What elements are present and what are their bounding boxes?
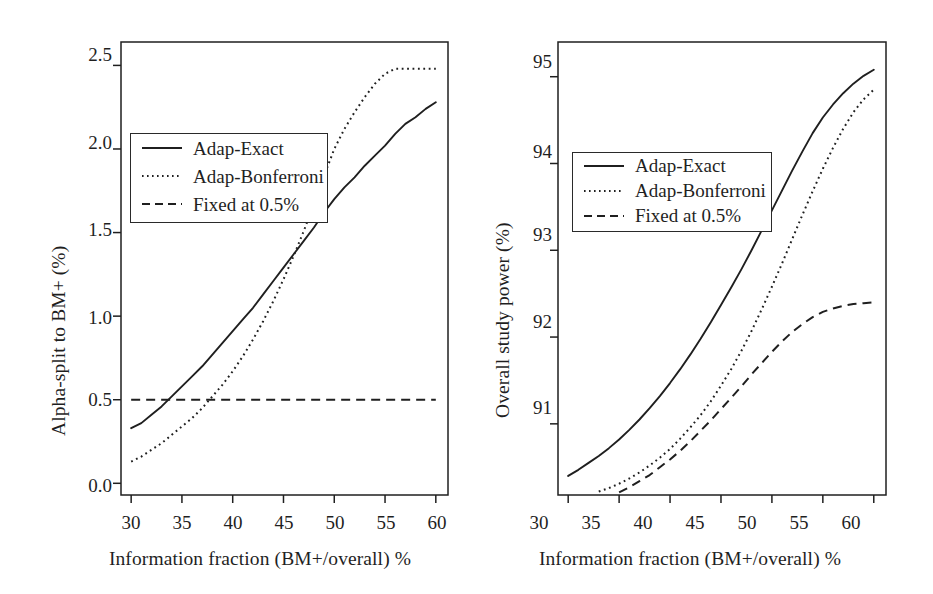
xtick-label: 30 bbox=[514, 512, 564, 534]
legend-key-solid-icon bbox=[582, 158, 626, 174]
legend-label: Adap-Bonferroni bbox=[635, 181, 766, 200]
ytick-label: 0.0 bbox=[60, 475, 112, 497]
legend-key-dotted-icon bbox=[582, 183, 626, 199]
series-line bbox=[568, 70, 874, 476]
xtick-label: 45 bbox=[259, 512, 309, 534]
series-line bbox=[131, 69, 436, 462]
y-axis-title: Overall study power (%) bbox=[492, 222, 514, 418]
legend-entry-adap-bonferroni: Adap-Bonferroni bbox=[131, 162, 327, 190]
ytick-label: 95 bbox=[500, 51, 552, 73]
plot-frame bbox=[121, 42, 448, 495]
xtick-label: 60 bbox=[412, 512, 462, 534]
legend-key-dashed-icon bbox=[582, 208, 626, 224]
legend-entry-adap-bonferroni: Adap-Bonferroni bbox=[573, 178, 771, 203]
legend-right: Adap-Exact Adap-Bonferroni Fixed at 0.5% bbox=[572, 152, 772, 232]
legend-entry-fixed: Fixed at 0.5% bbox=[131, 190, 327, 218]
legend-entry-adap-exact: Adap-Exact bbox=[131, 134, 327, 162]
ytick-label: 2.5 bbox=[60, 44, 112, 66]
series-line bbox=[619, 302, 874, 492]
x-axis-title: Information fraction (BM+/overall) % bbox=[490, 548, 890, 570]
legend-key-dashed-icon bbox=[140, 196, 184, 212]
xtick-label: 60 bbox=[826, 512, 876, 534]
plot-area-right bbox=[470, 0, 933, 594]
xtick-label: 30 bbox=[106, 512, 156, 534]
xtick-label: 50 bbox=[722, 512, 772, 534]
legend-key-dotted-icon bbox=[140, 168, 184, 184]
xtick-label: 55 bbox=[361, 512, 411, 534]
ytick-label: 1.5 bbox=[60, 219, 112, 241]
ytick-label: 2.0 bbox=[60, 132, 112, 154]
legend-label: Fixed at 0.5% bbox=[193, 195, 299, 214]
xtick-label: 35 bbox=[157, 512, 207, 534]
xtick-label: 40 bbox=[618, 512, 668, 534]
legend-left: Adap-Exact Adap-Bonferroni Fixed at 0.5% bbox=[130, 133, 328, 223]
xtick-label: 40 bbox=[208, 512, 258, 534]
legend-label: Adap-Exact bbox=[193, 139, 284, 158]
ytick-label: 94 bbox=[500, 141, 552, 163]
xtick-label: 35 bbox=[566, 512, 616, 534]
x-axis-title: Information fraction (BM+/overall) % bbox=[60, 548, 460, 570]
xtick-label: 50 bbox=[310, 512, 360, 534]
xtick-label: 45 bbox=[670, 512, 720, 534]
chart-panel-left: 2.5 2.0 1.5 1.0 0.5 0.0 30 35 40 45 50 5… bbox=[0, 0, 470, 594]
legend-entry-adap-exact: Adap-Exact bbox=[573, 153, 771, 178]
y-axis-title: Alpha-split to BM+ (%) bbox=[48, 246, 70, 436]
plot-frame bbox=[558, 42, 886, 495]
legend-key-solid-icon bbox=[140, 140, 184, 156]
legend-entry-fixed: Fixed at 0.5% bbox=[573, 203, 771, 228]
plot-area-left bbox=[0, 0, 470, 594]
legend-label: Fixed at 0.5% bbox=[635, 206, 741, 225]
chart-panel-right: 95 94 93 92 91 30 35 40 45 50 55 60 Info… bbox=[470, 0, 933, 594]
figure-root: 2.5 2.0 1.5 1.0 0.5 0.0 30 35 40 45 50 5… bbox=[0, 0, 933, 594]
legend-label: Adap-Bonferroni bbox=[193, 167, 324, 186]
series-line bbox=[599, 90, 874, 492]
legend-label: Adap-Exact bbox=[635, 156, 726, 175]
xtick-label: 55 bbox=[774, 512, 824, 534]
